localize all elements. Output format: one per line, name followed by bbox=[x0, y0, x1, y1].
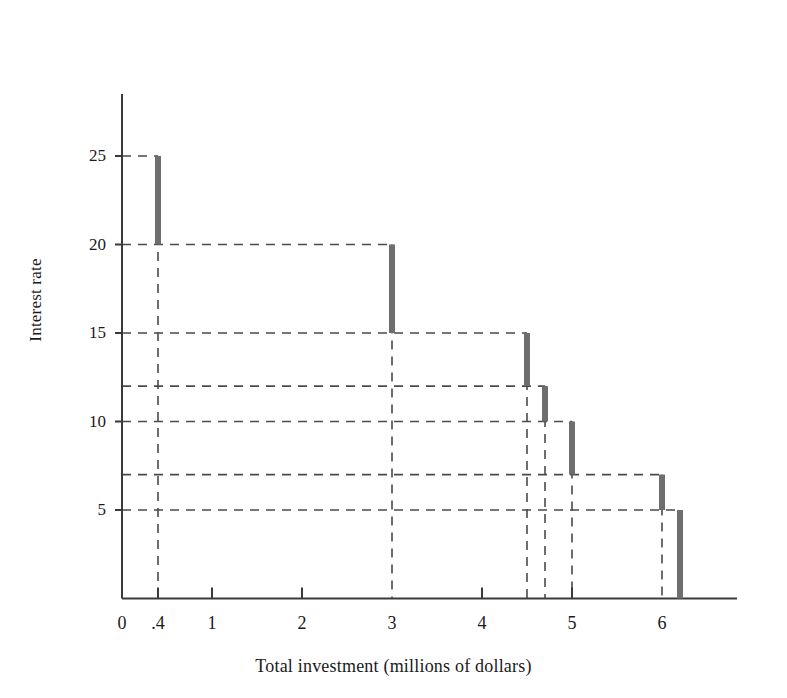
y-axis-title: Interest rate bbox=[26, 258, 46, 341]
step-risers bbox=[158, 156, 680, 599]
x-tick-label: 4 bbox=[462, 613, 502, 634]
x-axis-title: Total investment (millions of dollars) bbox=[0, 656, 787, 677]
y-tick-label: 5 bbox=[66, 500, 106, 520]
x-tick-label: 0 bbox=[102, 613, 142, 634]
horizontal-guidelines bbox=[122, 156, 680, 510]
vertical-guidelines bbox=[158, 156, 680, 599]
y-tick-label: 25 bbox=[66, 146, 106, 166]
y-tick-label: 20 bbox=[66, 235, 106, 255]
x-tick-label: 1 bbox=[192, 613, 232, 634]
y-tick-label: 15 bbox=[66, 323, 106, 343]
axis-lines bbox=[122, 94, 737, 598]
x-tick-label: .4 bbox=[138, 613, 178, 634]
x-tick-label: 2 bbox=[282, 613, 322, 634]
x-tick-label: 6 bbox=[642, 613, 682, 634]
x-tick-label: 3 bbox=[372, 613, 412, 634]
x-tick-label: 5 bbox=[552, 613, 592, 634]
y-tick-label: 10 bbox=[66, 412, 106, 432]
axis-ticks bbox=[115, 156, 572, 599]
investment-demand-chart: Interest rate Total investment (millions… bbox=[0, 0, 787, 698]
plot-area bbox=[0, 0, 787, 698]
